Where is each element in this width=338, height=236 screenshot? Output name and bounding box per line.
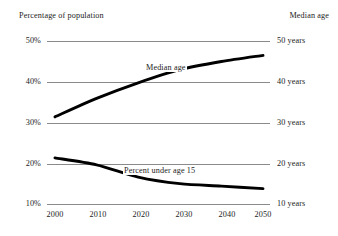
right-tick-50: 50 years — [277, 36, 305, 45]
left-tick-50: 50% — [26, 36, 41, 45]
left-axis-title: Percentage of population — [19, 11, 104, 20]
series-label-median-age: Median age — [145, 63, 187, 72]
right-axis-title: Median age — [289, 11, 329, 20]
x-tick-2030: 2030 — [176, 210, 193, 219]
x-tick-2010: 2010 — [90, 210, 107, 219]
x-tick-2020: 2020 — [133, 210, 150, 219]
x-tick-2000: 2000 — [47, 210, 64, 219]
left-tick-20: 20% — [26, 159, 41, 168]
left-tick-30: 30% — [26, 118, 41, 127]
x-tick-2040: 2040 — [219, 210, 236, 219]
x-tick-2050: 2050 — [255, 210, 272, 219]
right-tick-40: 40 years — [277, 77, 305, 86]
right-tick-30: 30 years — [277, 118, 305, 127]
right-tick-10: 10 years — [277, 199, 305, 208]
right-tick-20: 20 years — [277, 159, 305, 168]
series-label-percent-under-15: Percent under age 15 — [123, 166, 196, 175]
dual-axis-line-chart: Percentage of population Median age 50% … — [0, 0, 338, 236]
left-tick-10: 10% — [26, 199, 41, 208]
left-tick-40: 40% — [26, 77, 41, 86]
